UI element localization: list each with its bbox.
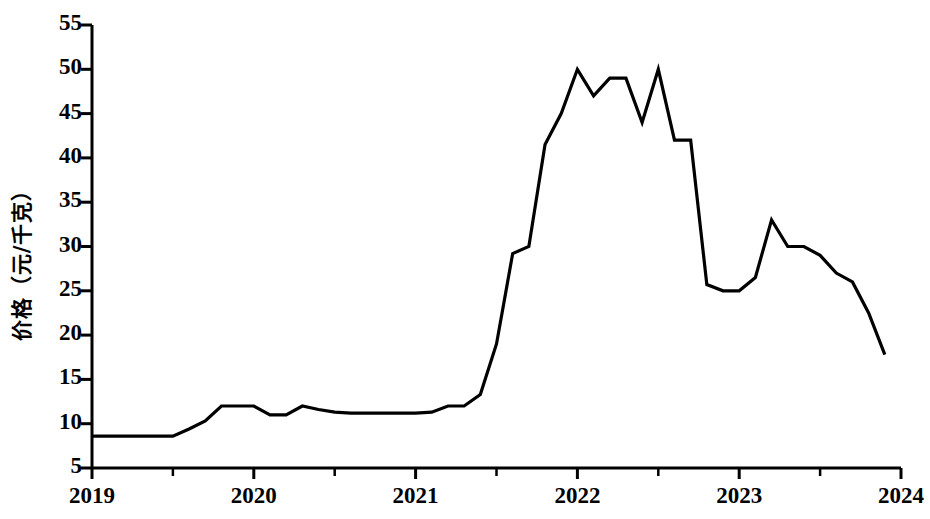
y-tick-label: 45	[30, 99, 82, 125]
y-tick-label: 50	[30, 54, 82, 80]
price-line-chart: 价格（元/千克） 510152025303540455055 201920202…	[0, 0, 930, 519]
y-tick-label: 10	[30, 409, 82, 435]
axis-lines	[92, 25, 901, 468]
y-tick-label: 40	[30, 143, 82, 169]
y-tick-label: 55	[30, 10, 82, 36]
x-tick-label: 2022	[532, 483, 622, 509]
x-tick-label: 2020	[209, 483, 299, 509]
y-tick-label: 5	[30, 453, 82, 479]
y-tick-label: 15	[30, 364, 82, 390]
y-tick-label: 30	[30, 232, 82, 258]
price-series-line	[92, 69, 885, 436]
y-tick-label: 20	[30, 320, 82, 346]
x-tick-label: 2019	[47, 483, 137, 509]
x-tick-label: 2024	[856, 483, 930, 509]
x-tick-label: 2021	[371, 483, 461, 509]
y-tick-label: 25	[30, 276, 82, 302]
y-axis-ticks	[81, 25, 92, 468]
y-tick-label: 35	[30, 187, 82, 213]
x-tick-label: 2023	[694, 483, 784, 509]
chart-plot-area	[0, 0, 930, 519]
